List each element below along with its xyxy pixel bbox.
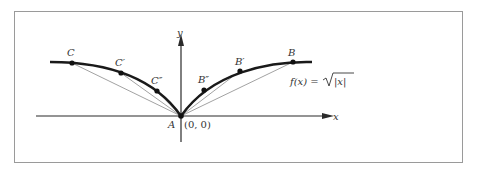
function-label-lhs: f(x) = (289, 76, 319, 87)
function-label-radicand: |x| (334, 76, 346, 88)
point-B (290, 59, 295, 64)
point-C (69, 60, 74, 65)
y-axis-label: y (176, 27, 183, 38)
sqrt-abs-diagram: x y C C′ C″ B″ B′ B A (0, 0) f(x) = |x| (0, 0, 484, 169)
secant-AB (181, 62, 293, 116)
x-axis-label: x (333, 111, 339, 122)
label-B1: B′ (234, 56, 245, 67)
point-B2 (201, 87, 206, 92)
label-A: A (167, 119, 175, 130)
point-C2 (154, 88, 159, 93)
secant-AC (72, 63, 181, 116)
point-C1 (118, 70, 123, 75)
point-B1 (237, 68, 242, 73)
secant-lines (72, 62, 293, 116)
label-C1: C′ (115, 57, 126, 68)
label-B2: B″ (197, 74, 209, 85)
label-C2: C″ (151, 75, 163, 86)
label-B: B (287, 47, 295, 58)
label-C: C (67, 47, 75, 58)
origin-coord-label: (0, 0) (184, 119, 211, 130)
function-label: f(x) = |x| (289, 73, 354, 88)
point-A (178, 113, 184, 119)
